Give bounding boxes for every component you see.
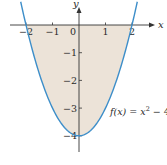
parabola-area-chart: x −2−1012 y −1−2−3−4 f(x) = x2 − 4 <box>0 0 167 165</box>
x-axis-arrow-icon <box>149 23 155 28</box>
y-axis-label: y <box>72 0 79 9</box>
x-tick-label: −1 <box>45 26 59 37</box>
y-tick-label: −1 <box>63 47 77 58</box>
x-tick-label: 0 <box>70 26 76 37</box>
y-tick-label: −2 <box>63 75 77 86</box>
x-axis-label: x <box>158 19 164 30</box>
x-tick-label: 1 <box>102 26 108 37</box>
function-label: f(x) = x2 − 4 <box>109 105 167 117</box>
y-tick-label: −3 <box>63 103 77 114</box>
